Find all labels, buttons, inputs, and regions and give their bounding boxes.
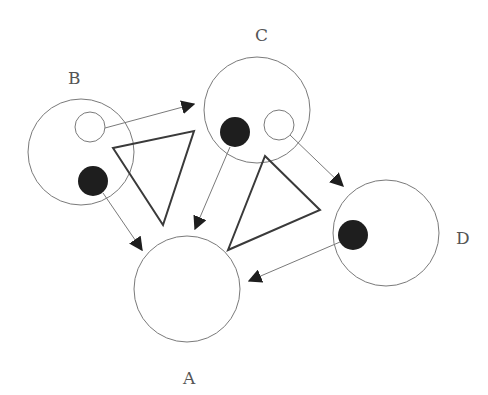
node-d-label: D [456, 228, 470, 248]
arrow-b-to-a [103, 193, 142, 250]
arrow-d-to-a [249, 242, 340, 281]
arrow-b-to-c [105, 104, 194, 128]
node-a-circle [134, 236, 240, 342]
node-b-open-dot [75, 112, 105, 142]
node-c-filled-dot [220, 117, 250, 147]
node-b-label: B [68, 68, 81, 88]
node-d: D [333, 180, 470, 286]
node-c: C [204, 25, 310, 163]
node-d-filled-dot [338, 220, 368, 250]
node-b: B [28, 68, 134, 205]
node-a: A [134, 236, 240, 388]
arrow-c-to-a [195, 147, 230, 229]
triangle-right [228, 156, 320, 250]
diagram-canvas: B C D A [0, 0, 488, 395]
node-b-filled-dot [78, 166, 108, 196]
triangle-left [113, 131, 194, 225]
node-c-open-dot [264, 110, 294, 140]
arrow-c-to-d [290, 135, 343, 186]
node-c-circle [204, 57, 310, 163]
node-a-label: A [182, 368, 196, 388]
node-c-label: C [255, 25, 268, 45]
